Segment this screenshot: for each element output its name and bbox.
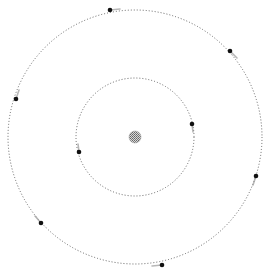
planet-dot (190, 122, 195, 127)
planet (253, 174, 258, 185)
planet-dot (108, 8, 113, 13)
planet (77, 144, 82, 154)
planet-dot (160, 263, 165, 268)
planet-dot (254, 174, 259, 179)
orbit-diagram (0, 0, 266, 272)
planet-dot (228, 49, 233, 54)
planet-dot (77, 150, 82, 155)
sun-icon (129, 131, 141, 143)
planet (35, 216, 43, 225)
sun (129, 131, 141, 143)
planet-dot (39, 221, 44, 226)
planet-dot (14, 97, 19, 102)
planet (14, 90, 19, 101)
planet (190, 122, 195, 132)
planet (228, 49, 237, 58)
planet (152, 263, 164, 268)
